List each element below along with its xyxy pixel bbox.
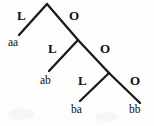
branch-label-o3: O — [130, 74, 140, 87]
branch-label-l3: L — [78, 74, 87, 87]
leaf-label-aa: aa — [8, 37, 18, 49]
leaf-label-ab: ab — [40, 75, 51, 87]
branch-label-o1: O — [69, 9, 79, 22]
leaf-label-bb: bb — [129, 104, 141, 116]
branch-label-o2: O — [100, 42, 110, 55]
leaf-label-ba: ba — [71, 104, 82, 116]
branch-label-l2: L — [48, 42, 57, 55]
tree-diagram-figure: L O L O L O aa ab ba bb — [0, 0, 154, 126]
branch-label-l1: L — [17, 9, 26, 22]
